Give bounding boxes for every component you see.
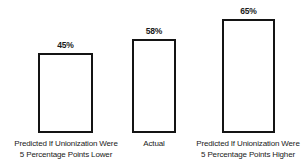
bar-rect-3 — [222, 19, 275, 133]
bar-caption-3-line2: 5 Percentage Points Higher — [186, 150, 308, 161]
bar-group-1: 45% — [38, 40, 93, 135]
bar-caption-1-line1: Predicted If Unionization Were — [4, 139, 128, 150]
bar-caption-2-line1: Actual — [126, 139, 182, 150]
bar-group-2: 58% — [132, 26, 176, 135]
bar-value-label-3: 65% — [222, 6, 275, 16]
bar-caption-3: Predicted If Unionization Were 5 Percent… — [186, 139, 308, 160]
bar-caption-3-line1: Predicted If Unionization Were — [186, 139, 308, 150]
bar-chart: 45% Predicted If Unionization Were 5 Per… — [0, 0, 308, 167]
bar-value-label-2: 58% — [132, 26, 176, 36]
bar-value-label-1: 45% — [38, 40, 93, 50]
bar-group-3: 65% — [222, 6, 275, 135]
bar-rect-2 — [132, 39, 176, 133]
bar-caption-1-line2: 5 Percentage Points Lower — [4, 150, 128, 161]
bar-rect-1 — [38, 53, 93, 133]
bar-caption-2: Actual — [126, 139, 182, 150]
bar-caption-1: Predicted If Unionization Were 5 Percent… — [4, 139, 128, 160]
